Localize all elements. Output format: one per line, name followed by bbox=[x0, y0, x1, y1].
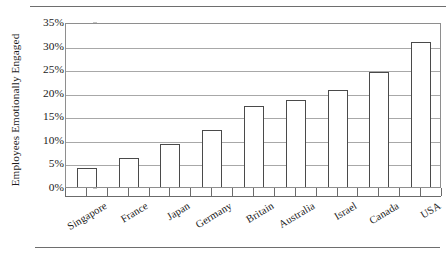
x-axis-tick-mark bbox=[295, 188, 296, 196]
x-axis-tick-mark bbox=[399, 188, 400, 196]
y-axis-title: Employees Emotionally Engaged bbox=[9, 15, 29, 205]
y-axis-tick-label: 35% bbox=[32, 17, 64, 28]
x-axis-tick-mark bbox=[107, 188, 108, 196]
x-axis-tick-mark bbox=[86, 188, 87, 196]
x-axis-tick-mark bbox=[253, 188, 254, 196]
x-axis-tick-mark bbox=[149, 188, 150, 196]
plot-area bbox=[65, 23, 441, 188]
bar bbox=[77, 168, 97, 187]
x-axis-category-label: Singapore bbox=[65, 200, 108, 232]
x-axis-category-label: Japan bbox=[165, 200, 192, 222]
bar bbox=[328, 90, 348, 187]
bar-series bbox=[66, 24, 440, 187]
x-axis-category-label: Canada bbox=[367, 200, 400, 226]
x-axis-line bbox=[65, 196, 441, 197]
x-axis-category-label: Britain bbox=[244, 200, 275, 225]
y-axis-tick-label: 15% bbox=[32, 112, 64, 123]
x-axis-tick-mark bbox=[420, 188, 421, 196]
bar bbox=[160, 144, 180, 187]
x-axis-tick-mark bbox=[357, 188, 358, 196]
x-axis-category-label: Australia bbox=[277, 200, 317, 230]
x-axis-tick-mark bbox=[169, 188, 170, 196]
x-axis-category-label: Israel bbox=[333, 200, 359, 222]
x-axis-tick-mark bbox=[190, 188, 191, 196]
top-divider-rule bbox=[30, 6, 446, 7]
bar bbox=[244, 106, 264, 187]
bar bbox=[119, 158, 139, 187]
y-axis-tick-label: 20% bbox=[32, 88, 64, 99]
bar bbox=[369, 72, 389, 188]
y-axis-tick-label: 0% bbox=[32, 182, 64, 193]
x-axis-tick-mark bbox=[378, 188, 379, 196]
x-axis-tick-mark bbox=[128, 188, 129, 196]
x-axis-tick-mark bbox=[441, 188, 442, 196]
y-axis-tick-label: 10% bbox=[32, 135, 64, 146]
bar bbox=[286, 100, 306, 187]
x-axis-tick-mark bbox=[211, 188, 212, 196]
y-axis-tick-labels: 0%5%10%15%20%25%30%35% bbox=[32, 0, 64, 260]
x-axis-tick-mark bbox=[274, 188, 275, 196]
bottom-divider-rule bbox=[35, 247, 440, 248]
bar bbox=[411, 42, 431, 187]
x-axis-tick-mark bbox=[316, 188, 317, 196]
x-axis-tick-mark bbox=[337, 188, 338, 196]
x-axis-tick-mark bbox=[232, 188, 233, 196]
bar bbox=[202, 130, 222, 187]
x-axis-category-label: USA bbox=[418, 200, 442, 221]
chart-figure: Employees Emotionally Engaged 0%5%10%15%… bbox=[0, 0, 448, 260]
y-axis-tick-label: 5% bbox=[32, 159, 64, 170]
x-axis-category-label: Germany bbox=[194, 200, 234, 230]
x-axis-tick-mark bbox=[65, 188, 66, 196]
y-axis-tick-label: 30% bbox=[32, 41, 64, 52]
x-axis-category-label: France bbox=[119, 200, 150, 225]
y-axis-tick-label: 25% bbox=[32, 64, 64, 75]
